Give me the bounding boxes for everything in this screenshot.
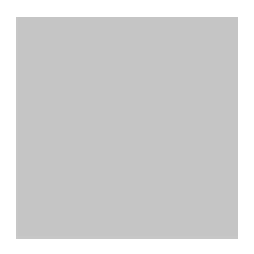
go-stones-layer bbox=[0, 0, 254, 254]
go-problem-diagram bbox=[0, 0, 254, 254]
